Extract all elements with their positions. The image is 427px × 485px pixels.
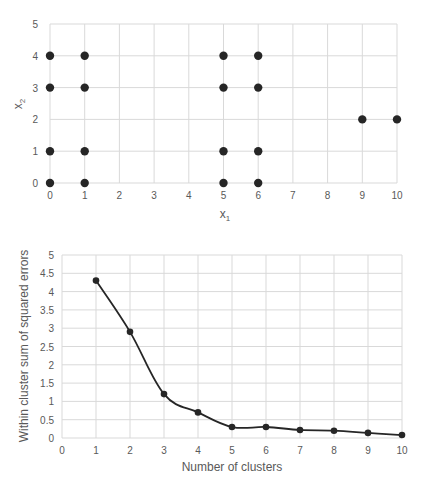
data-point [263,424,270,431]
data-point [229,424,236,431]
x-tick-label: 1 [93,445,99,456]
data-point [93,277,100,284]
x-tick-label: 0 [59,445,65,456]
y-tick-label: 2 [48,360,54,371]
x-tick-label: 10 [396,445,408,456]
data-point [399,432,406,439]
x-tick-label: 3 [161,445,167,456]
data-point [331,427,338,434]
elbow-gridlines [62,255,402,438]
elbow-markers [93,277,406,438]
y-tick-label: 0 [48,433,54,444]
elbow-y-tick-labels: 00.511.522.533.544.55 [40,250,54,444]
elbow-curve [96,281,402,435]
y-tick-label: 0.5 [40,415,54,426]
y-tick-label: 4 [48,287,54,298]
y-tick-label: 3.5 [40,305,54,316]
elbow-y-axis-title: Within cluster sum of squared errors [17,250,31,443]
y-tick-label: 4.5 [40,268,54,279]
y-tick-label: 1 [48,396,54,407]
x-tick-label: 6 [263,445,269,456]
elbow-x-axis-title: Number of clusters [182,460,283,474]
x-tick-label: 7 [297,445,303,456]
x-tick-label: 4 [195,445,201,456]
data-point [127,329,134,336]
y-tick-label: 2.5 [40,342,54,353]
y-tick-label: 5 [48,250,54,261]
data-point [161,391,168,398]
elbow-x-tick-labels: 012345678910 [59,445,408,456]
x-tick-label: 9 [365,445,371,456]
y-tick-label: 1.5 [40,378,54,389]
x-tick-label: 2 [127,445,133,456]
x-tick-label: 8 [331,445,337,456]
data-point [195,409,202,416]
data-point [365,430,372,437]
y-tick-label: 3 [48,323,54,334]
elbow-line-chart: 00.511.522.533.544.55 012345678910 Numbe… [0,0,427,485]
x-tick-label: 5 [229,445,235,456]
data-point [297,427,304,434]
